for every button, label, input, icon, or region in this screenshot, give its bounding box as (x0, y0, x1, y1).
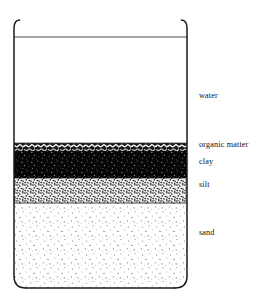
layer-organic-matter (14, 143, 187, 151)
label-clay: clay (199, 158, 213, 166)
label-silt: silt (199, 181, 210, 189)
layer-water (14, 37, 187, 143)
layer-sand (14, 203, 187, 288)
soil-settling-diagram: water organic matter clay silt sand (0, 0, 271, 300)
layer-silt (14, 178, 187, 203)
label-water: water (199, 92, 218, 100)
layer-clay (14, 151, 187, 178)
label-organic-matter: organic matter (199, 141, 248, 149)
beaker-illustration (0, 0, 271, 300)
sediment-layers-group (14, 37, 187, 288)
label-sand: sand (199, 229, 215, 237)
